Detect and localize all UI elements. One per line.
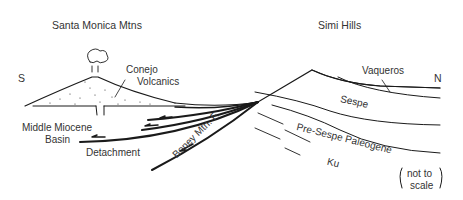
label-scale: scale	[410, 181, 433, 191]
boney-mtn-fault	[152, 102, 258, 170]
volcanic-stipple	[49, 81, 150, 104]
label-not-to: not to	[407, 169, 432, 179]
label-vaqueros: Vaqueros	[362, 66, 404, 76]
geologic-cross-section: Santa Monica Mtns Simi Hills S N Conejo …	[0, 0, 463, 200]
title-santa-monica-mtns: Santa Monica Mtns	[52, 20, 142, 31]
label-middle-miocene: Middle Miocene	[22, 123, 92, 133]
compass-south: S	[18, 73, 25, 84]
label-basin: Basin	[45, 135, 70, 145]
feeder-dike	[96, 106, 104, 115]
label-conejo: Conejo	[126, 65, 158, 75]
label-volcanics: Volcanics	[137, 77, 179, 87]
label-detachment: Detachment	[86, 148, 140, 158]
compass-north: N	[434, 73, 442, 84]
title-simi-hills: Simi Hills	[318, 20, 361, 31]
eruption-cloud-icon	[88, 49, 109, 63]
